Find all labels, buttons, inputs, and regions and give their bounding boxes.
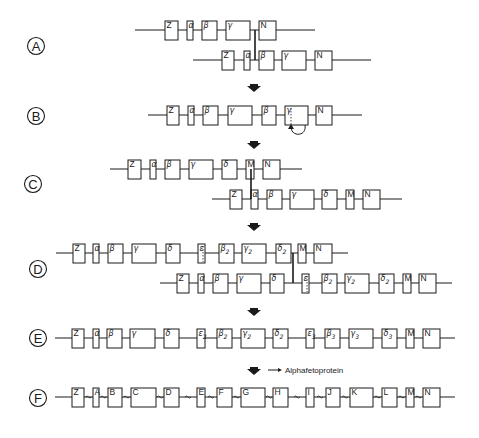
exon-box: γ — [130, 329, 155, 348]
svg-text:α: α — [95, 244, 101, 253]
exon-box: N — [316, 105, 332, 125]
gene-strand: ZABCDEFGHIJKLMN — [55, 387, 455, 407]
gene-strand: ZαβγN — [135, 20, 315, 40]
exon-box: I — [306, 387, 314, 407]
exon-box: δ2 — [379, 274, 394, 293]
exon-box: Z — [72, 328, 84, 348]
step-marker-c: C — [25, 176, 42, 193]
svg-text:Z: Z — [224, 50, 229, 60]
step-e: Zαβγδε2β2γ2δ2ε3β3γ3δ3MN — [55, 328, 455, 348]
svg-text:Z: Z — [232, 189, 237, 199]
exon-box: N — [263, 159, 280, 179]
exon-box: N — [315, 50, 332, 70]
gene-strand: ZαβγδMN — [110, 159, 302, 179]
gene-strand: ZαβγN — [193, 50, 371, 70]
svg-text:M: M — [408, 387, 415, 397]
svg-text:N: N — [365, 189, 371, 199]
exon-box: F — [217, 387, 232, 407]
svg-text:Z: Z — [130, 159, 135, 169]
exon-box: γ — [290, 190, 314, 209]
gene-strand: ZαβγδMN — [212, 189, 402, 209]
svg-text:H: H — [275, 387, 281, 397]
down-arrow-icon-stem — [250, 367, 258, 370]
exon-box: Z — [222, 50, 234, 70]
curved-arrow-icon — [291, 125, 305, 134]
exon-box: A — [93, 387, 101, 407]
svg-text:δ: δ — [324, 190, 329, 199]
exon-box: γ3 — [349, 329, 373, 348]
exon-box: M — [346, 189, 355, 209]
exon-box: δ — [322, 190, 337, 209]
svg-text:α: α — [200, 274, 206, 283]
exon-box: δ — [166, 244, 180, 263]
exon-box: δ2 — [276, 244, 291, 263]
svg-text:δ: δ — [224, 160, 229, 169]
svg-text:Z: Z — [74, 328, 79, 338]
step-d: Zαβγδεβ2γ2δ2MNZαβγδεβ2γ2δ2MN — [56, 243, 452, 293]
svg-text:M: M — [405, 273, 412, 283]
svg-text:β: β — [204, 106, 210, 115]
exon-box: M — [406, 328, 415, 348]
step-marker-f: F — [30, 390, 47, 407]
exon-box: δ — [222, 160, 237, 179]
svg-text:ε: ε — [304, 274, 309, 283]
exon-box: B — [108, 387, 122, 407]
exon-box: β3 — [325, 329, 340, 348]
exon-box: β — [259, 51, 274, 70]
svg-text:δ: δ — [272, 274, 277, 283]
svg-text:ε: ε — [200, 244, 205, 253]
exon-box: E — [197, 387, 205, 407]
svg-text:N: N — [261, 20, 267, 30]
exon-box: D — [164, 387, 179, 407]
exon-box: H — [273, 387, 288, 407]
svg-text:α: α — [152, 160, 158, 169]
exon-box: δ2 — [273, 329, 288, 348]
exon-box: β2 — [322, 274, 337, 293]
svg-text:N: N — [265, 159, 271, 169]
down-arrow-icon-stem — [250, 223, 258, 226]
exon-box: N — [314, 243, 332, 263]
exon-box: M — [298, 243, 307, 263]
exon-box: γ2 — [345, 274, 369, 293]
svg-text:B: B — [110, 387, 116, 397]
exon-box: β — [203, 106, 218, 125]
svg-text:M: M — [248, 159, 255, 169]
exon-box: N — [363, 189, 380, 209]
svg-text:δ: δ — [168, 244, 173, 253]
svg-text:F: F — [219, 387, 224, 397]
exon-box: γ — [226, 21, 250, 40]
svg-text:M: M — [348, 189, 355, 199]
svg-text:M: M — [408, 328, 415, 338]
exon-box: Z — [230, 189, 242, 209]
exon-box: γ — [189, 160, 213, 179]
svg-text:β: β — [263, 106, 269, 115]
exon-box: α — [188, 106, 196, 125]
svg-text:A: A — [32, 39, 41, 54]
svg-text:N: N — [318, 105, 324, 115]
right-arrow-icon — [278, 368, 282, 372]
exon-box: J — [326, 387, 340, 407]
svg-text:β: β — [268, 190, 274, 199]
svg-text:N: N — [317, 50, 323, 60]
exon-box: α — [150, 160, 158, 179]
svg-text:β: β — [203, 21, 209, 30]
gene-strand: Zαβγδεβ2γ2δ2MN — [160, 273, 452, 293]
svg-text:A: A — [95, 387, 101, 397]
svg-text:Z: Z — [74, 387, 79, 397]
exon-box: Z — [177, 273, 189, 293]
svg-text:δ: δ — [166, 329, 171, 338]
svg-text:Z: Z — [179, 273, 184, 283]
exon-box: γ2 — [241, 329, 265, 348]
svg-text:I: I — [308, 387, 310, 397]
svg-text:E: E — [34, 331, 43, 346]
svg-text:α: α — [189, 21, 195, 30]
step-c: ZαβγδMNZαβγδMN — [110, 159, 402, 209]
svg-text:D: D — [166, 387, 172, 397]
svg-text:β: β — [166, 160, 172, 169]
exon-box: β — [213, 274, 228, 293]
exon-box: β — [202, 21, 217, 40]
exon-box: δ — [270, 274, 284, 293]
step-marker-b: B — [28, 108, 45, 125]
down-arrow-icon-stem — [250, 84, 258, 87]
svg-text:β: β — [260, 51, 266, 60]
